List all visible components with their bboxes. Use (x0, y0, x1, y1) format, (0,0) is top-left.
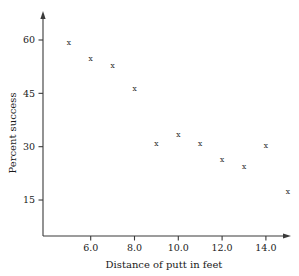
x-tick-label-8.0: 8.0 (127, 242, 142, 253)
x-axis-title: Distance of putt in feet (106, 259, 223, 270)
data-point-1: x (89, 54, 94, 63)
data-point-0: x (67, 38, 72, 47)
plot-canvas: 153045606.08.010.012.014.0Distance of pu… (0, 0, 299, 276)
x-tick-label-6.0: 6.0 (83, 242, 98, 253)
y-tick-label-30: 30 (23, 141, 35, 152)
y-tick-label-15: 15 (23, 194, 35, 205)
data-point-3: x (132, 84, 137, 93)
x-tick-label-10.0: 10.0 (168, 242, 189, 253)
y-tick-label-45: 45 (23, 88, 35, 99)
data-point-9: x (264, 141, 269, 150)
data-point-2: x (110, 61, 115, 70)
scatter-plot-figure: 153045606.08.010.012.014.0Distance of pu… (0, 0, 299, 276)
data-point-7: x (220, 155, 225, 164)
data-point-10: x (286, 187, 291, 196)
y-tick-label-60: 60 (23, 34, 35, 45)
y-axis-arrow-icon (40, 11, 45, 19)
data-point-8: x (242, 162, 247, 171)
data-point-5: x (176, 130, 181, 139)
x-tick-label-14.0: 14.0 (255, 242, 276, 253)
y-axis-title: Percent success (7, 92, 18, 173)
data-point-4: x (154, 139, 159, 148)
x-axis-arrow-icon (283, 233, 291, 238)
data-point-6: x (198, 139, 203, 148)
x-tick-label-12.0: 12.0 (212, 242, 233, 253)
